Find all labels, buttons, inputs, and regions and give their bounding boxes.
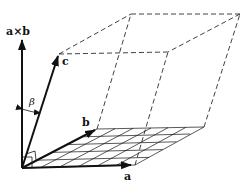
label-a: a — [124, 170, 131, 183]
label-b: b — [82, 116, 90, 129]
label-beta: β — [28, 96, 35, 107]
label-axb: a×b — [6, 25, 30, 38]
vector-a — [22, 165, 131, 168]
parallelepiped-diagram: a×b c b a β — [0, 0, 246, 191]
base-grid — [22, 127, 204, 168]
beta-angle-arc — [22, 109, 40, 113]
label-c: c — [62, 55, 69, 68]
